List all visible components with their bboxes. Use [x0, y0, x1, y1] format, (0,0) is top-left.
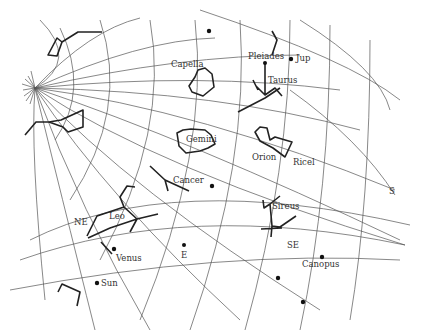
label-pleiades: Pleiades: [248, 51, 284, 61]
label-ne: NE: [74, 217, 88, 227]
label-jup: Jup: [295, 53, 311, 63]
label-canopus: Canopus: [302, 259, 339, 269]
label-taurus: Taurus: [268, 75, 297, 85]
celestial-grid: [10, 10, 410, 330]
label-capella: Capella: [171, 59, 204, 69]
label-sireus: Sireus: [272, 201, 299, 211]
label-s: S: [389, 186, 395, 196]
label-venus: Venus: [115, 253, 142, 263]
label-orion: Orion: [252, 152, 277, 162]
label-se: SE: [287, 240, 299, 250]
label-cancer: Cancer: [173, 175, 205, 185]
sky-map: Capella Pleiades Jup Taurus Gemini Orion…: [0, 0, 425, 333]
label-e: E: [181, 250, 187, 260]
label-gemini: Gemini: [186, 134, 217, 144]
label-leo: Leo: [109, 211, 125, 221]
pole-rays: [22, 71, 35, 104]
meridians: [34, 18, 405, 330]
label-ricel: Ricel: [293, 157, 315, 167]
parallels: [10, 10, 410, 330]
label-sun: Sun: [101, 278, 118, 288]
star-chart: Capella Pleiades Jup Taurus Gemini Orion…: [0, 0, 425, 333]
